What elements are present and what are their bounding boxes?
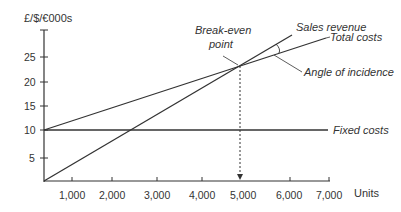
x-tick-5000: 5,000 [230, 189, 256, 201]
x-tick-6000: 6,000 [276, 189, 302, 201]
y-tick-15: 15 [24, 100, 36, 112]
x-tick-3000: 3,000 [144, 189, 170, 201]
y-tick-10: 10 [24, 124, 36, 136]
x-tick-1000: 1,000 [59, 189, 85, 201]
y-axis-label: £/$/€000s [24, 12, 72, 24]
y-tick-25: 25 [24, 51, 36, 63]
x-tick-7000: 7,000 [316, 189, 342, 201]
x-tick-2000: 2,000 [99, 189, 125, 201]
y-tick-20: 20 [24, 76, 36, 88]
break-even-label: Break-even [195, 24, 251, 36]
fixed-costs-label: Fixed costs [333, 124, 389, 136]
y-tick-5: 5 [29, 152, 35, 164]
break-even-chart: £/$/€000s 25 20 15 10 5 1,000 2,000 3,00… [0, 0, 401, 212]
total-costs-line [44, 38, 326, 130]
sales-revenue-line [44, 35, 292, 181]
angle-of-incidence-label: Angle of incidence [304, 66, 394, 78]
x-axis-label: Units [354, 187, 379, 199]
arrow-down-icon [237, 174, 243, 180]
angle-arc [276, 44, 280, 53]
break-even-label-2: point [209, 38, 233, 50]
total-costs-label: Total costs [330, 31, 382, 43]
x-tick-4000: 4,000 [189, 189, 215, 201]
